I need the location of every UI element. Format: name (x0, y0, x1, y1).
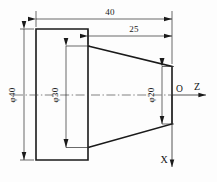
dim-40-group (36, 11, 172, 64)
x-axis-label: X (160, 154, 168, 165)
cylinder-body-outline (36, 29, 88, 160)
dim-phi30-label: φ30 (50, 87, 60, 102)
drawing-svg: 40 25 φ40 φ30 φ20 O Z X (0, 0, 217, 182)
origin-label: O (176, 84, 183, 94)
dim-phi30-group (66, 46, 90, 148)
engineering-drawing-canvas: 40 25 φ40 φ30 φ20 O Z X (0, 0, 217, 182)
dim-phi40-group (20, 29, 34, 160)
dim-25-label: 25 (129, 24, 139, 34)
dim-phi20-label: φ20 (146, 87, 156, 102)
z-axis-label: Z (194, 81, 200, 92)
cone-frustum-outline (88, 46, 172, 148)
dim-40-label: 40 (105, 7, 115, 17)
dim-phi40-label: φ40 (7, 87, 17, 102)
